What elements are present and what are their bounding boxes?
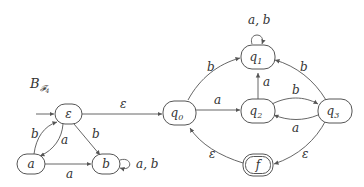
svg-text:b: b: [102, 157, 110, 171]
edge-label-q0-to-q1: b: [207, 60, 215, 74]
edge-label-q3-to-f: ε: [302, 147, 308, 161]
edge-label-f-to-q0: ε: [209, 147, 215, 161]
node-a: a: [17, 154, 45, 174]
edge-label-q2-to-q3: b: [292, 83, 300, 97]
edge-q1-loop: [251, 35, 262, 44]
edge-q3-to-f: [274, 120, 326, 164]
edge-eps-to-a: [40, 124, 63, 156]
edge-label-q3-to-q2: a: [292, 121, 299, 135]
node-q1: q1: [241, 45, 275, 69]
edge-f-to-q0: [190, 128, 243, 163]
edge-label-q0-to-q2: a: [214, 93, 221, 107]
node-q3: q3: [318, 99, 352, 123]
edge-label-eps-to-a: a: [61, 133, 68, 147]
node-q2: q2: [241, 99, 275, 123]
edge-q3-to-q2: [274, 115, 318, 120]
edge-label-q3-to-q1: b: [300, 60, 308, 74]
svg-text:a: a: [27, 157, 34, 171]
node-q0: q0: [163, 101, 196, 125]
automaton-diagram: B𝓕4 b a b a a, b ε b a a, b a b a b ε ε …: [0, 0, 364, 187]
node-b: b: [92, 154, 120, 174]
edge-q2-to-q3: [272, 98, 318, 104]
edge-label-b-loop: a, b: [136, 157, 158, 171]
edge-label-eps-to-b: b: [92, 127, 100, 141]
automaton-title: B𝓕4: [29, 76, 50, 94]
edge-label-a-to-b: a: [66, 167, 73, 181]
edge-label-eps-to-q0: ε: [120, 97, 126, 111]
edge-label-q2-to-q1: a: [263, 75, 270, 89]
node-eps: ε: [55, 104, 82, 124]
edge-b-loop: [120, 159, 130, 168]
svg-text:ε: ε: [65, 107, 71, 121]
edge-label-a-to-eps: b: [31, 127, 39, 141]
edge-label-q1-loop: a, b: [248, 13, 270, 27]
node-f-accepting: f: [243, 154, 273, 176]
